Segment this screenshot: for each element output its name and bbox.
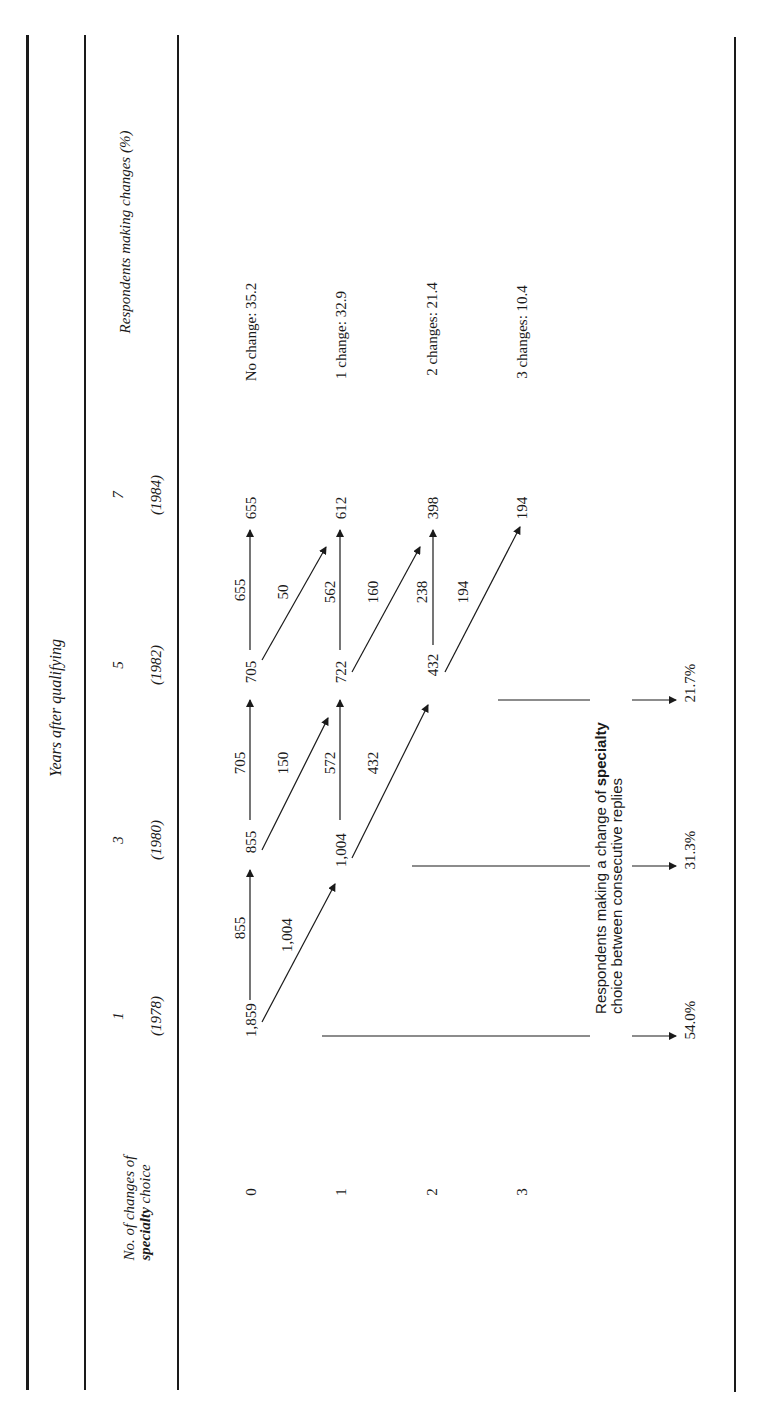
flow-label-432-194: 194 [456, 581, 471, 604]
flow-label-1859-855: 855 [233, 917, 248, 940]
flow-label-855-722: 150 [276, 752, 291, 775]
year-3-label: 3 [111, 836, 126, 844]
outcome-header: Respondents making changes (%) [118, 131, 133, 334]
row-label-1: 1 [334, 1188, 349, 1196]
flow-label-722-612: 562 [323, 581, 338, 604]
summary-pct-1978-1980: 54.0% [683, 1001, 698, 1040]
node-1980-r0: 855 [244, 831, 259, 854]
flow-label-705-655: 655 [233, 579, 248, 602]
row-label-2: 2 [425, 1188, 440, 1196]
summary-pct-1980-1982: 31.3% [683, 831, 698, 870]
node-1984-r3: 194 [515, 497, 530, 520]
flow-label-722-398: 160 [366, 581, 381, 604]
outcome-row-3: 3 changes: 10.4 [515, 285, 530, 379]
node-1984-r2: 398 [426, 497, 441, 520]
summary-caption-line1: Respondents making a change of specialty [593, 722, 609, 1014]
node-1984-r1: 612 [334, 497, 349, 520]
row-header-keyword: specialty [137, 1207, 153, 1260]
flow-arrows [0, 0, 764, 1428]
row-label-3: 3 [515, 1188, 530, 1196]
node-1980-r1: 1,004 [334, 833, 349, 867]
row-header-label: No. of changes of specialty choice [122, 1156, 154, 1261]
summary-pct-1982-1984: 21.7% [683, 664, 698, 703]
group-header-years: Years after qualifying [48, 639, 64, 777]
node-1978-r0: 1,859 [244, 1003, 259, 1037]
row-header-line2: specialty choice [138, 1156, 154, 1261]
summary-caption: Respondents making a change of specialty… [593, 722, 625, 1014]
row-header-line2-rest: choice [137, 1164, 153, 1207]
row-label-0: 0 [244, 1188, 259, 1196]
outcome-row-0: No change: 35.2 [244, 283, 259, 382]
year-7-label: 7 [111, 491, 126, 499]
flow-label-1004-722: 572 [323, 752, 338, 775]
year-1-label: 1 [111, 1012, 126, 1020]
node-1982-r1: 722 [334, 661, 349, 684]
flow-label-705-612: 50 [276, 585, 291, 600]
flow-label-432-398: 238 [415, 581, 430, 604]
year-5-label: 5 [111, 661, 126, 669]
year-5-calendar: (1982) [149, 645, 164, 685]
node-1982-r2: 432 [426, 654, 441, 677]
year-1-calendar: (1978) [149, 996, 164, 1036]
outcome-row-2: 2 changes: 21.4 [425, 282, 440, 376]
node-1984-r0: 655 [244, 497, 259, 520]
summary-caption-line2: choice between consecutive replies [609, 722, 625, 1014]
flow-label-1859-1004: 1,004 [280, 918, 295, 952]
node-1982-r0: 705 [244, 661, 259, 684]
outcome-row-1: 1 change: 32.9 [334, 291, 349, 379]
summary-caption-keyword: specialty [592, 722, 609, 786]
flow-label-855-705: 705 [233, 752, 248, 775]
summary-caption-line1-text: Respondents making a change of [592, 786, 609, 1014]
flow-label-1004-432: 432 [366, 752, 381, 775]
row-header-line1: No. of changes of [122, 1156, 138, 1261]
year-7-calendar: (1984) [149, 475, 164, 515]
year-3-calendar: (1980) [149, 820, 164, 860]
